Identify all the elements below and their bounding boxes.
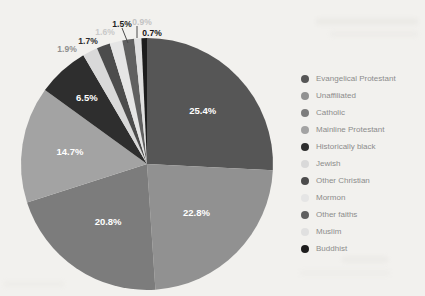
- legend-item-buddhist: Buddhist: [301, 241, 396, 258]
- pct-label-other-faiths: 1.5%: [112, 19, 132, 29]
- legend-item-unaffiliated: Unaffiliated: [301, 87, 396, 104]
- pie-slice-unaffiliated: [147, 164, 273, 290]
- legend-item-historically-black: Historically black: [301, 138, 396, 155]
- legend-label: Unaffiliated: [316, 92, 356, 100]
- legend-label: Historically black: [316, 143, 376, 151]
- scanned-page: 25.4%22.8%20.8%14.7%6.5%1.9%1.7%1.6%1.5%…: [0, 0, 425, 296]
- pie-slices: [21, 38, 273, 290]
- pct-label-catholic: 20.8%: [95, 216, 122, 227]
- legend: Evangelical ProtestantUnaffiliatedCathol…: [301, 70, 396, 258]
- pct-label-jewish: 1.9%: [57, 44, 77, 54]
- pct-label-unaffiliated: 22.8%: [183, 207, 210, 218]
- legend-label: Mormon: [316, 194, 345, 202]
- legend-label: Muslim: [316, 228, 341, 236]
- legend-label: Buddhist: [316, 245, 347, 253]
- pie-slice-evangelical-protestant: [147, 38, 273, 170]
- legend-swatch-icon: [301, 75, 309, 83]
- legend-label: Other faiths: [316, 211, 357, 219]
- legend-label: Catholic: [316, 109, 345, 117]
- legend-item-catholic: Catholic: [301, 104, 396, 121]
- legend-item-jewish: Jewish: [301, 155, 396, 172]
- legend-swatch-icon: [301, 160, 309, 168]
- legend-label: Jewish: [316, 160, 340, 168]
- legend-swatch-icon: [301, 126, 309, 134]
- legend-item-mainline-protestant: Mainline Protestant: [301, 121, 396, 138]
- legend-swatch-icon: [301, 92, 309, 100]
- legend-item-other-christian: Other Christian: [301, 173, 396, 190]
- legend-item-evangelical-protestant: Evangelical Protestant: [301, 70, 396, 87]
- pct-label-muslim: 0.9%: [132, 17, 152, 27]
- pct-label-historically-black: 6.5%: [76, 92, 98, 103]
- legend-swatch-icon: [301, 245, 309, 253]
- legend-item-mormon: Mormon: [301, 190, 396, 207]
- legend-swatch-icon: [301, 143, 309, 151]
- pct-label-buddhist: 0.7%: [142, 28, 162, 38]
- legend-swatch-icon: [301, 211, 309, 219]
- legend-swatch-icon: [301, 228, 309, 236]
- legend-label: Evangelical Protestant: [316, 75, 396, 83]
- pct-label-evangelical-protestant: 25.4%: [189, 105, 216, 116]
- legend-item-muslim: Muslim: [301, 224, 396, 241]
- legend-label: Mainline Protestant: [316, 126, 384, 134]
- legend-swatch-icon: [301, 177, 309, 185]
- legend-label: Other Christian: [316, 177, 370, 185]
- pct-label-mainline-protestant: 14.7%: [56, 146, 83, 157]
- legend-item-other-faiths: Other faiths: [301, 207, 396, 224]
- legend-swatch-icon: [301, 194, 309, 202]
- legend-swatch-icon: [301, 109, 309, 117]
- pct-label-other-christian: 1.7%: [78, 36, 98, 46]
